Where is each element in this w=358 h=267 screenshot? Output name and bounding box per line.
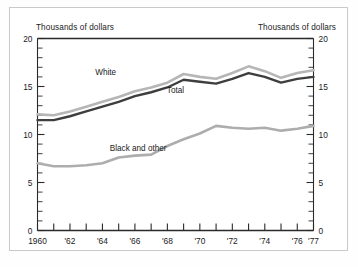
y-tick-label: 0 xyxy=(28,226,33,236)
x-tick-label: '74 xyxy=(259,236,270,246)
axis-lines-group xyxy=(38,39,314,231)
series-line-total xyxy=(38,73,314,120)
y2-tick-label: 10 xyxy=(319,130,329,140)
x-tick-label: '68 xyxy=(162,236,173,246)
x-tick-label: '72 xyxy=(227,236,238,246)
x-tick-label: '62 xyxy=(65,236,76,246)
line-chart-svg: 0055101015152020 1960'62'64'66'68'70'72'… xyxy=(0,0,358,267)
x-tick-label: '70 xyxy=(194,236,205,246)
y-tick-label: 15 xyxy=(23,82,33,92)
y-tick-label-group: 0055101015152020 xyxy=(23,34,328,236)
y2-tick-label: 20 xyxy=(319,34,329,44)
plot-area: 0055101015152020 1960'62'64'66'68'70'72'… xyxy=(0,0,358,267)
x-tick-label: '64 xyxy=(97,236,108,246)
series-label-black-and-other: Black and other xyxy=(110,144,167,153)
x-tick-label: '76 xyxy=(292,236,303,246)
y-tick-label: 20 xyxy=(23,34,33,44)
x-tick-group xyxy=(38,224,314,231)
x-tick-label: '66 xyxy=(129,236,140,246)
series-line-black-and-other xyxy=(38,126,314,166)
y-tick-label: 5 xyxy=(28,178,33,188)
major-tick-group xyxy=(38,39,314,231)
series-label-total: Total xyxy=(167,86,184,95)
series-group xyxy=(38,66,314,166)
x-tick-label: '77 xyxy=(308,236,319,246)
series-label-white: White xyxy=(95,68,116,77)
y2-tick-label: 0 xyxy=(319,226,324,236)
x-tick-label: 1960 xyxy=(28,236,47,246)
x-tick-label-group: 1960'62'64'66'68'70'72'74'76'77 xyxy=(28,236,319,246)
y2-tick-label: 5 xyxy=(319,178,324,188)
y-tick-label: 10 xyxy=(23,130,33,140)
y2-tick-label: 15 xyxy=(319,82,329,92)
chart-figure: Thousands of dollars Thousands of dollar… xyxy=(0,0,358,267)
